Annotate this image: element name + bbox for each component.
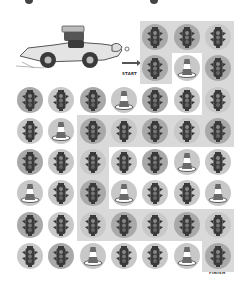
traffic-light-icon [17,149,43,175]
traffic-light-cell[interactable] [174,212,200,238]
traffic-cone-icon [174,243,200,269]
traffic-light-cell[interactable] [80,180,106,206]
traffic-light-icon [174,118,200,144]
traffic-light-cell[interactable] [17,118,43,144]
traffic-light-icon [17,243,43,269]
traffic-light-icon [17,118,43,144]
traffic-light-cell[interactable] [17,87,43,113]
traffic-light-icon [205,87,231,113]
traffic-light-icon [17,212,43,238]
traffic-light-icon [205,243,231,269]
traffic-light-cell[interactable] [17,243,43,269]
traffic-light-cell[interactable] [111,149,137,175]
traffic-light-cell[interactable] [205,212,231,238]
traffic-light-cell[interactable] [142,149,168,175]
traffic-light-icon [48,212,74,238]
traffic-light-icon [142,118,168,144]
traffic-cone-icon [174,149,200,175]
traffic-light-cell[interactable] [48,180,74,206]
traffic-light-icon [205,55,231,81]
traffic-light-cell[interactable] [174,87,200,113]
race-car-illustration [14,22,134,72]
traffic-light-cell[interactable] [205,87,231,113]
traffic-light-cell[interactable] [48,149,74,175]
traffic-cone-icon [17,180,43,206]
traffic-light-cell[interactable] [111,243,137,269]
traffic-light-icon [142,24,168,50]
traffic-light-icon [205,149,231,175]
traffic-light-icon [174,212,200,238]
traffic-light-cell[interactable] [205,149,231,175]
traffic-light-cell[interactable] [48,87,74,113]
traffic-light-cell[interactable] [205,24,231,50]
traffic-light-icon [80,149,106,175]
cropped-glyph-icon [150,0,158,4]
traffic-light-cell[interactable] [142,180,168,206]
traffic-light-icon [80,180,106,206]
cone-cell[interactable] [111,87,137,113]
traffic-light-icon [142,149,168,175]
traffic-light-icon [17,87,43,113]
traffic-light-cell[interactable] [111,212,137,238]
traffic-light-cell[interactable] [111,118,137,144]
traffic-light-icon [142,180,168,206]
traffic-light-icon [48,87,74,113]
traffic-light-cell[interactable] [142,24,168,50]
traffic-light-icon [80,87,106,113]
traffic-light-cell[interactable] [142,243,168,269]
traffic-light-cell[interactable] [142,55,168,81]
traffic-cone-icon [174,55,200,81]
traffic-light-cell[interactable] [142,212,168,238]
traffic-light-icon [142,212,168,238]
traffic-light-icon [80,118,106,144]
traffic-light-icon [111,118,137,144]
cone-cell[interactable] [205,180,231,206]
traffic-light-cell[interactable] [48,212,74,238]
traffic-light-icon [174,87,200,113]
top-cropped-fragments [0,0,247,8]
traffic-light-icon [48,180,74,206]
cropped-glyph-icon [25,0,33,4]
traffic-light-cell[interactable] [174,118,200,144]
traffic-light-cell[interactable] [205,55,231,81]
cone-cell[interactable] [174,55,200,81]
cone-cell[interactable] [174,243,200,269]
traffic-light-cell[interactable] [174,24,200,50]
traffic-light-cell[interactable] [142,118,168,144]
traffic-light-icon [174,180,200,206]
cone-cell[interactable] [111,180,137,206]
traffic-light-icon [111,149,137,175]
traffic-light-cell[interactable] [142,87,168,113]
cone-cell[interactable] [80,243,106,269]
traffic-light-cell[interactable] [205,243,231,269]
traffic-light-cell[interactable] [205,118,231,144]
traffic-light-icon [48,149,74,175]
traffic-light-cell[interactable] [48,243,74,269]
traffic-light-icon [111,243,137,269]
traffic-light-cell[interactable] [80,87,106,113]
traffic-cone-icon [48,118,74,144]
traffic-light-icon [142,87,168,113]
traffic-cone-icon [111,87,137,113]
traffic-cone-icon [111,180,137,206]
traffic-cone-icon [205,180,231,206]
traffic-light-cell[interactable] [17,212,43,238]
cone-cell[interactable] [17,180,43,206]
traffic-light-cell[interactable] [174,180,200,206]
traffic-light-icon [48,243,74,269]
traffic-light-cell[interactable] [80,149,106,175]
traffic-light-icon [205,212,231,238]
traffic-light-icon [174,24,200,50]
traffic-light-icon [205,24,231,50]
traffic-light-icon [142,243,168,269]
cone-cell[interactable] [48,118,74,144]
traffic-light-icon [80,212,106,238]
cone-cell[interactable] [174,149,200,175]
traffic-light-cell[interactable] [17,149,43,175]
traffic-light-cell[interactable] [80,212,106,238]
traffic-light-icon [142,55,168,81]
start-arrow-icon [122,62,138,64]
traffic-light-cell[interactable] [80,118,106,144]
traffic-cone-icon [80,243,106,269]
traffic-light-icon [111,212,137,238]
